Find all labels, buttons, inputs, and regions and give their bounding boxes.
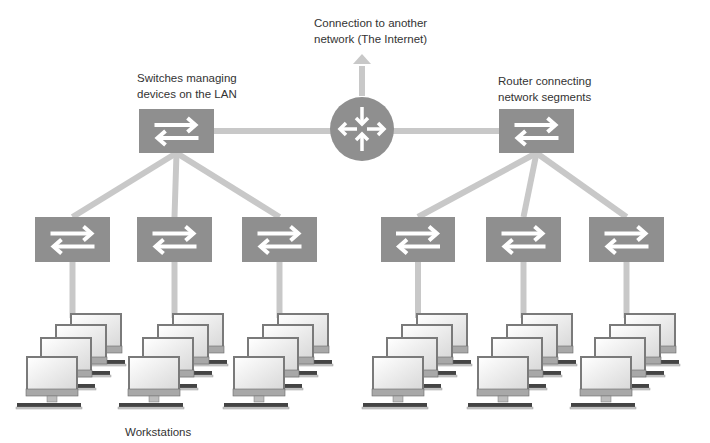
internet-label: Connection to another network (The Inter… xyxy=(314,15,427,47)
lower-switch-3[interactable] xyxy=(242,217,317,262)
workstation-cluster xyxy=(570,313,680,409)
lower-switch-5[interactable] xyxy=(486,217,561,262)
workstation-cluster xyxy=(223,313,333,409)
router-label: Router connecting network segments xyxy=(498,73,591,105)
internet-label-line1: Connection to another xyxy=(314,15,427,31)
router-label-line1: Router connecting xyxy=(498,73,591,89)
lower-switch-6[interactable] xyxy=(589,217,664,262)
workstations-label: Workstations xyxy=(125,424,191,440)
lower-switch-1[interactable] xyxy=(35,217,110,262)
internet-uplink-arrow xyxy=(353,54,371,96)
workstation-icon xyxy=(223,356,289,409)
workstation-cluster xyxy=(16,313,126,409)
network-diagram xyxy=(0,0,710,443)
top-switch-right[interactable] xyxy=(499,109,574,153)
top-switch-left[interactable] xyxy=(139,109,214,153)
workstation-icon xyxy=(570,356,636,409)
switches-label-line2: devices on the LAN xyxy=(137,86,237,102)
workstation-icon xyxy=(16,356,82,409)
lower-switch-2[interactable] xyxy=(137,217,212,262)
switches-label: Switches managing devices on the LAN xyxy=(137,70,237,102)
workstation-icon xyxy=(118,356,184,409)
workstation-cluster xyxy=(118,313,228,409)
workstation-cluster xyxy=(467,313,577,409)
workstation-cluster xyxy=(362,313,472,409)
lower-switch-4[interactable] xyxy=(381,217,455,262)
router[interactable] xyxy=(330,97,394,161)
workstation-icon xyxy=(467,356,533,409)
internet-label-line2: network (The Internet) xyxy=(314,31,427,47)
switches-label-line1: Switches managing xyxy=(137,70,237,86)
workstation-icon xyxy=(362,356,428,409)
router-label-line2: network segments xyxy=(498,89,591,105)
